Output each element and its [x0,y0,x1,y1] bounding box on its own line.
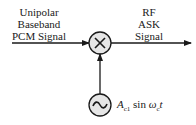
block-diagram [0,0,196,125]
oscillator-icon [89,94,111,116]
formula-t: t [160,98,163,110]
oscillator-formula: Ac1 sin ωct [117,98,163,113]
formula-func: sin [133,98,146,110]
formula-amplitude: A [117,98,124,110]
multiplier-icon [89,32,111,54]
formula-amplitude-sub: c1 [124,105,131,113]
